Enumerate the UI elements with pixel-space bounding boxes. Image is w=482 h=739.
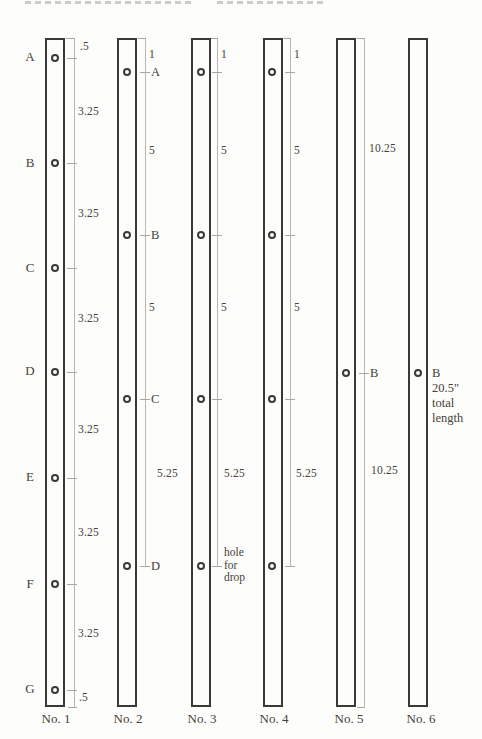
bar1-dim-label: 3.25	[78, 422, 99, 436]
dim-tick	[212, 399, 222, 400]
bar4-hole-1	[268, 68, 276, 76]
note-line: drop	[224, 571, 245, 584]
dim-tick	[285, 399, 295, 400]
note-line: hole	[224, 546, 245, 559]
note-line: for	[224, 559, 245, 572]
cropped-text-fragment	[25, 1, 193, 4]
dim-tick	[67, 478, 77, 479]
annotation-line: total	[432, 396, 463, 411]
dim-tick	[284, 38, 291, 39]
bar5-dim-label: 10.25	[369, 141, 396, 155]
bar1-dim-label: 3.25	[78, 525, 99, 539]
bar3-dim-label: 5.25	[224, 466, 245, 480]
dim-tick	[67, 584, 77, 585]
bar6-annotation-total-length: 20.5" total length	[432, 381, 463, 426]
dim-tick	[67, 372, 77, 373]
bar2-hole-D	[123, 562, 131, 570]
dim-tick	[357, 707, 365, 708]
bar3-dim-label: 5	[221, 143, 227, 157]
dim-tick	[67, 690, 77, 691]
bar2-dim-label: 5	[149, 143, 155, 157]
dim-tick	[285, 72, 295, 73]
bar1-side-letter-D: D	[22, 362, 38, 380]
dim-tick	[66, 38, 75, 39]
bar3-hole-1	[197, 68, 205, 76]
bar1-dim-label: .5	[80, 39, 89, 53]
diagram-figure: A B C D E F G .5 3.25 3.25 3.25 3.25 3.2…	[0, 0, 482, 739]
annotation-line: length	[432, 411, 463, 426]
bar4-dim-label: 5	[294, 143, 300, 157]
cropped-text-fragment	[217, 1, 323, 4]
annotation-line: 20.5"	[432, 381, 463, 396]
bar3-dim-label: 1	[221, 47, 227, 61]
bar1-dim-label: 3.25	[78, 626, 99, 640]
bar4-dim-label: 5.25	[296, 466, 317, 480]
bar4-dim-label: 1	[294, 47, 300, 61]
bar4-hole-4	[268, 562, 276, 570]
bar1-side-letter-G: G	[22, 680, 38, 698]
bar4-dim-label: 5	[294, 300, 300, 314]
bar5-dim-label: 10.25	[371, 463, 398, 477]
dim-tick	[211, 38, 218, 39]
bar2-dim-line	[145, 38, 146, 566]
bar1-side-letter-F: F	[22, 575, 38, 593]
bar3-hole-4	[197, 562, 205, 570]
dim-tick	[359, 373, 369, 374]
dim-tick	[67, 58, 77, 59]
bar4-hole-3	[268, 395, 276, 403]
dim-tick	[285, 235, 295, 236]
bar1-dim-label: .5	[79, 690, 88, 704]
bar1-hole-C	[51, 264, 59, 272]
bar1-dim-label: 3.25	[78, 311, 99, 325]
bar1-hole-E	[51, 474, 59, 482]
bar1-side-letter-C: C	[22, 259, 38, 277]
bar1-hole-F	[51, 580, 59, 588]
bar2-dim-label: 5.25	[157, 466, 178, 480]
bar3-hole-2	[197, 231, 205, 239]
bar3-note-hole-for-drop: hole for drop	[224, 546, 245, 584]
dim-tick	[140, 235, 150, 236]
bar6-hole-B	[414, 369, 422, 377]
bar3-dim-line	[217, 38, 218, 566]
bar2-hole-A	[123, 68, 131, 76]
bar1-hole-B	[51, 159, 59, 167]
bar4-hole-2	[268, 231, 276, 239]
bar2-caption: No. 2	[100, 711, 156, 727]
bar5-hole-B	[342, 369, 350, 377]
dim-tick	[138, 38, 146, 39]
bar2-dim-label: 1	[149, 47, 155, 61]
dim-tick	[357, 38, 365, 39]
dim-tick	[68, 707, 77, 708]
bar4-dim-line	[290, 38, 291, 566]
dim-tick	[140, 72, 150, 73]
dim-tick	[285, 566, 295, 567]
bar1-side-letter-E: E	[22, 468, 38, 486]
bar-no-4-outline	[263, 38, 283, 707]
bar2-hole-B	[123, 231, 131, 239]
bar6-hole-letter-B: B	[432, 365, 440, 381]
bar2-hole-C	[123, 395, 131, 403]
bar1-hole-D	[51, 368, 59, 376]
bar1-hole-A	[51, 54, 59, 62]
bar2-hole-letter-B: B	[151, 227, 159, 243]
bar1-side-letter-B: B	[22, 154, 38, 172]
bar2-dim-label: 5	[149, 300, 155, 314]
bar3-caption: No. 3	[174, 711, 230, 727]
dim-tick	[140, 566, 150, 567]
bar-no-2-outline	[117, 38, 137, 707]
bar6-caption: No. 6	[393, 711, 449, 727]
dim-tick	[212, 235, 222, 236]
bar1-dim-label: 3.25	[78, 104, 99, 118]
bar5-caption: No. 5	[321, 711, 377, 727]
dim-tick	[67, 268, 77, 269]
bar1-caption: No. 1	[28, 711, 84, 727]
bar1-dim-label: 3.25	[78, 206, 99, 220]
bar3-dim-label: 5	[221, 300, 227, 314]
bar-no-3-outline	[191, 38, 211, 707]
dim-tick	[212, 566, 222, 567]
bar2-hole-letter-A: A	[151, 64, 160, 80]
bar1-side-letter-A: A	[22, 48, 38, 66]
dim-tick	[67, 163, 77, 164]
bar5-hole-letter-B: B	[370, 365, 378, 381]
bar3-hole-3	[197, 395, 205, 403]
